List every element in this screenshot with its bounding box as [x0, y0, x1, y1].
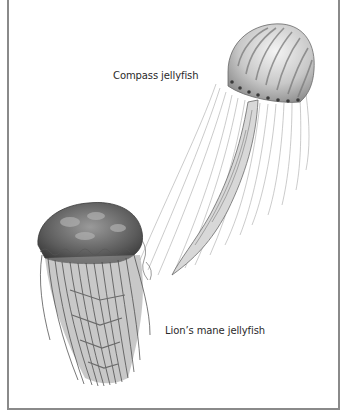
compass-jellyfish-label: Compass jellyfish — [113, 70, 198, 81]
jellyfish-illustration — [0, 0, 345, 414]
lions-mane-jellyfish-label: Lion’s mane jellyfish — [165, 325, 265, 336]
compass-jellyfish — [140, 24, 314, 275]
lions-mane-jellyfish — [38, 202, 151, 386]
